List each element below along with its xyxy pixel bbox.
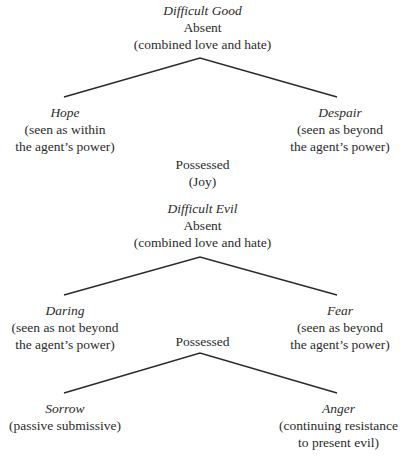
evil-absent-label: Absent [100, 217, 305, 234]
hope-title: Hope [0, 104, 130, 121]
fear-note-2: the agent’s power) [275, 336, 405, 353]
fear-note-1: (seen as beyond [275, 319, 405, 336]
despair-note-1: (seen as beyond [275, 121, 405, 138]
evil-possessed-label: Possessed [150, 333, 255, 350]
hope-note-2: the agent’s power) [0, 138, 130, 155]
good-possessed: Possessed (Joy) [140, 156, 265, 190]
sorrow-title: Sorrow [0, 400, 130, 417]
daring-note-1: (seen as not beyond [0, 319, 130, 336]
good-header: Difficult Good Absent (combined love and… [100, 2, 305, 53]
evil-absent-branch [64, 257, 337, 295]
daring-node: Daring (seen as not beyond the agent’s p… [0, 302, 130, 353]
anger-note-2: to present evil) [272, 434, 405, 451]
good-absent-label: Absent [100, 19, 305, 36]
good-absent-note: (combined love and hate) [100, 36, 305, 53]
hope-note-1: (seen as within [0, 121, 130, 138]
good-title: Difficult Good [100, 2, 305, 19]
despair-node: Despair (seen as beyond the agent’s powe… [275, 104, 405, 155]
hope-node: Hope (seen as within the agent’s power) [0, 104, 130, 155]
anger-note-1: (continuing resistance [272, 417, 405, 434]
anger-node: Anger (continuing resistance to present … [272, 400, 405, 451]
evil-header: Difficult Evil Absent (combined love and… [100, 200, 305, 251]
daring-title: Daring [0, 302, 130, 319]
sorrow-node: Sorrow (passive submissive) [0, 400, 130, 434]
despair-note-2: the agent’s power) [275, 138, 405, 155]
evil-title: Difficult Evil [100, 200, 305, 217]
sorrow-note-1: (passive submissive) [0, 417, 130, 434]
evil-absent-note: (combined love and hate) [100, 234, 305, 251]
evil-possessed-branch [64, 353, 337, 393]
anger-title: Anger [272, 400, 405, 417]
good-possessed-note: (Joy) [140, 173, 265, 190]
daring-note-2: the agent’s power) [0, 336, 130, 353]
good-absent-branch [64, 58, 337, 97]
despair-title: Despair [275, 104, 405, 121]
fear-node: Fear (seen as beyond the agent’s power) [275, 302, 405, 353]
fear-title: Fear [275, 302, 405, 319]
good-possessed-label: Possessed [140, 156, 265, 173]
evil-possessed: Possessed [150, 333, 255, 350]
